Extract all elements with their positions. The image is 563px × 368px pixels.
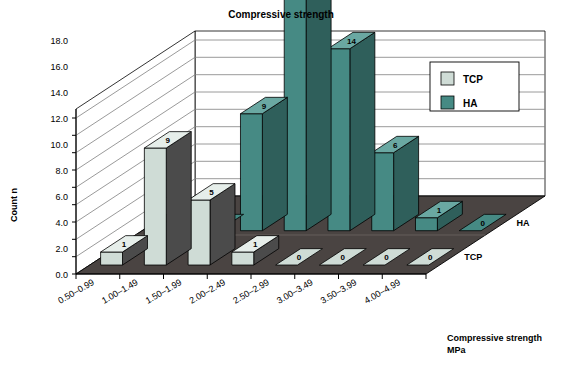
bar-value-label: 6 [393,141,398,150]
chart-legend: TCPHA [430,62,519,111]
x-axis-title-line1: Compressive strength [447,333,542,343]
x-axis [76,274,426,279]
bar-front [240,114,262,231]
row-label-ha: HA [517,218,530,228]
bar-value-label: 0 [428,253,433,262]
y-tick-label-0: 0.0 [55,270,68,280]
bar-value-label: 0 [384,253,389,262]
legend-swatch-tcp[interactable] [441,72,454,85]
bar-side [262,97,287,230]
bar-tcp-2: 5 [188,184,235,265]
y-tick-label-5: 10.0 [50,140,68,150]
bar-value-label: 1 [253,240,258,249]
y-tick-label-1: 2.0 [55,244,68,254]
page-title: Compressive strength [228,9,334,20]
x-category-label-0: 0.50–0.99 [56,277,96,306]
y-axis: 0.02.04.06.08.010.012.014.016.018.0 Coun… [9,36,76,280]
row-label-tcp: TCP [464,252,482,262]
y-tick-label-4: 8.0 [55,166,68,176]
bar-value-label: 0 [341,253,346,262]
x-category-label-6: 3.50–3.99 [319,277,359,306]
x-axis-title-line2: MPa [447,345,467,355]
bar-front [232,252,254,265]
bar-value-label: 9 [166,136,171,145]
y-tick-label-7: 14.0 [50,88,68,98]
y-tick-label-3: 6.0 [55,192,68,202]
bar-value-label: 1 [122,240,127,249]
x-axis-category-labels: 0.50–0.991.00–1.491.50–1.992.00–2.492.50… [56,277,402,306]
bar-ha-3: 18 [284,0,331,231]
x-category-label-4: 2.50–2.99 [231,277,271,306]
y-axis-title: Count n [9,188,19,222]
x-category-label-1: 1.00–1.49 [100,277,140,306]
bar-value-label: 14 [347,37,356,46]
legend-label-ha: HA [463,98,477,109]
bar-ha-2: 9 [240,97,287,230]
bar-side [306,0,331,231]
x-category-label-2: 1.50–1.99 [144,277,184,306]
bar-tcp-1: 9 [144,132,191,265]
x-category-label-7: 4.00–4.99 [362,277,402,306]
bar-side [166,132,191,265]
x-category-label-5: 3.00–3.49 [275,277,315,306]
legend-label-tcp: TCP [463,74,483,85]
bar-value-label: 9 [262,102,267,111]
chart-container: 0.02.04.06.08.010.012.014.016.018.0 Coun… [0,0,563,368]
y-tick-label-6: 12.0 [50,114,68,124]
bar-value-label: 0 [480,219,485,228]
legend-swatch-ha[interactable] [441,96,454,109]
compressive-strength-3d-bar-chart: 0.02.04.06.08.010.012.014.016.018.0 Coun… [0,0,563,368]
x-category-label-3: 2.00–2.49 [187,277,227,306]
y-tick-label-8: 16.0 [50,62,68,72]
y-tick-label-2: 4.0 [55,218,68,228]
bar-value-label: 0 [297,253,302,262]
bar-ha-5: 6 [372,136,419,230]
bar-ha-4: 14 [328,32,375,230]
bar-value-label: 1 [437,206,442,215]
bar-value-label: 5 [209,188,214,197]
y-tick-label-9: 18.0 [50,36,68,46]
bar-side [350,32,375,230]
bar-front [101,252,123,265]
bar-front [415,218,437,231]
